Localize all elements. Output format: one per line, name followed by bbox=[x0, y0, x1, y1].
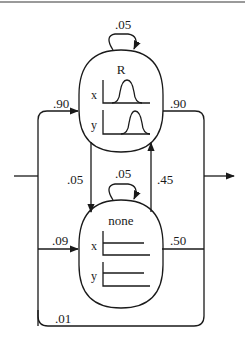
none-self-loop bbox=[109, 184, 136, 200]
none-node-title: none bbox=[79, 214, 163, 227]
r-node-title: R bbox=[79, 63, 163, 76]
none-y-plot bbox=[103, 262, 150, 286]
r-y-plot bbox=[103, 110, 150, 134]
r-x-plot bbox=[103, 80, 150, 103]
none-y-axis-label: y bbox=[91, 270, 97, 282]
none-to-r-label: .45 bbox=[157, 173, 173, 186]
entry-to-none-label: .09 bbox=[52, 234, 68, 247]
entry-to-exit-label: .01 bbox=[55, 312, 71, 325]
left-bus bbox=[38, 111, 78, 326]
r-self-loop bbox=[109, 34, 136, 50]
none-self-loop-label: .05 bbox=[115, 167, 131, 180]
r-x-axis-label: x bbox=[91, 89, 97, 101]
r-self-loop-label: .05 bbox=[115, 18, 131, 31]
none-x-plot bbox=[103, 231, 150, 255]
r-exit-label: .90 bbox=[170, 97, 186, 110]
none-x-axis-label: x bbox=[91, 240, 97, 252]
entry-to-r-label: .90 bbox=[53, 97, 69, 110]
r-to-none-label: .05 bbox=[67, 173, 83, 186]
r-y-axis-label: y bbox=[91, 119, 97, 131]
none-exit-label: .50 bbox=[170, 234, 186, 247]
